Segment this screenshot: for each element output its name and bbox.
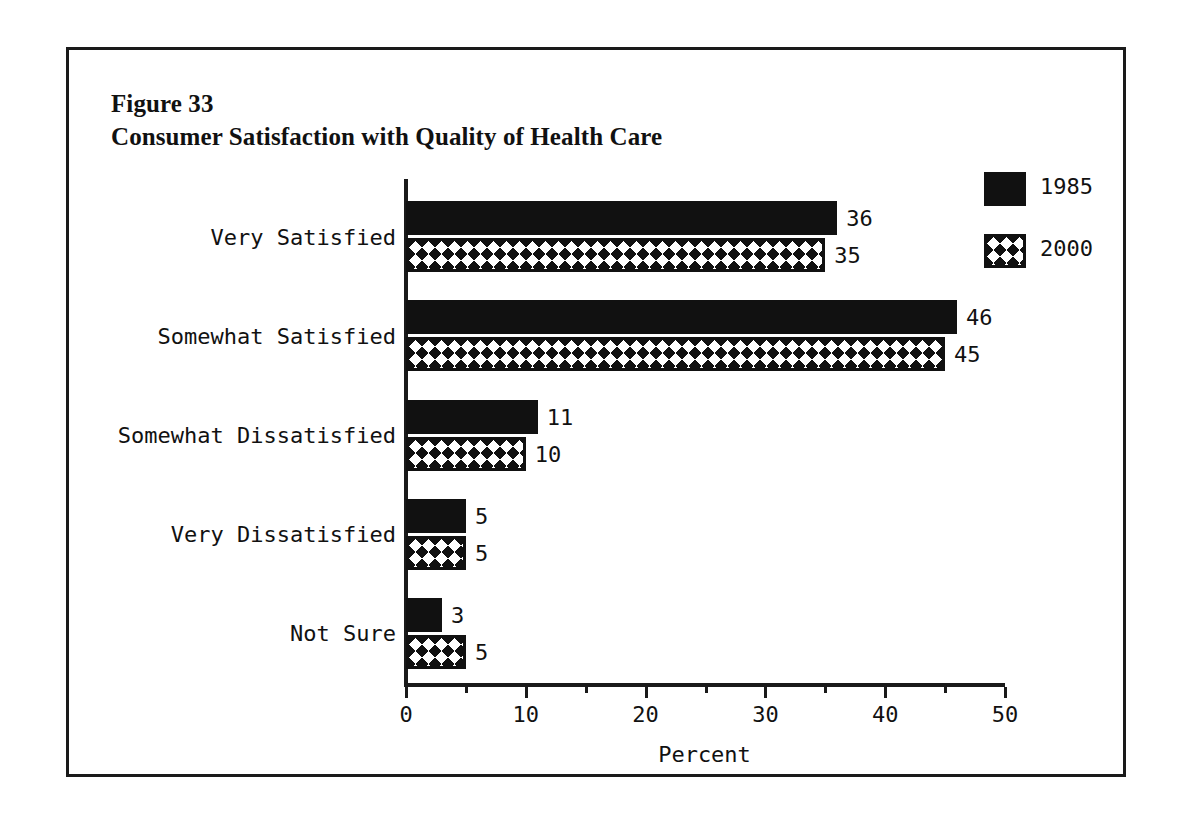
- bar-1985: [406, 499, 466, 533]
- legend-swatch-icon: [984, 234, 1026, 268]
- chart-legend: 19852000: [984, 172, 1124, 296]
- category-label: Very Satisfied: [74, 224, 404, 249]
- bar-value-label: 3: [451, 602, 464, 627]
- bar-2000: [406, 238, 825, 272]
- x-tick-label: 0: [399, 702, 412, 727]
- figure-frame: Figure 33 Consumer Satisfaction with Qua…: [66, 47, 1126, 777]
- x-tick-minor: [585, 687, 588, 693]
- category-label: Somewhat Dissatisfied: [74, 423, 404, 448]
- x-tick-minor: [465, 687, 468, 693]
- bar-chart-plot-area: 01020304050 Percent Very SatisfiedSomewh…: [69, 50, 1129, 780]
- legend-label: 1985: [1040, 174, 1093, 199]
- x-tick-label: 20: [632, 702, 659, 727]
- bar-value-label: 10: [535, 441, 562, 466]
- bar-value-label: 36: [846, 206, 873, 231]
- bar-2000: [406, 635, 466, 669]
- bar-1985: [406, 300, 957, 334]
- x-tick-major: [525, 687, 528, 698]
- x-axis-label: Percent: [404, 742, 1005, 767]
- x-tick-major: [884, 687, 887, 698]
- x-tick-label: 40: [872, 702, 899, 727]
- bar-value-label: 45: [954, 342, 981, 367]
- bar-value-label: 5: [475, 503, 488, 528]
- x-tick-label: 50: [992, 702, 1019, 727]
- legend-item-2000[interactable]: 2000: [984, 234, 1124, 278]
- x-tick-major: [1004, 687, 1007, 698]
- bar-value-label: 5: [475, 540, 488, 565]
- bar-2000: [406, 536, 466, 570]
- bar-value-label: 11: [547, 404, 574, 429]
- x-tick-major: [405, 687, 408, 698]
- x-tick-major: [645, 687, 648, 698]
- x-tick-label: 10: [513, 702, 540, 727]
- bar-2000: [406, 337, 945, 371]
- bar-1985: [406, 598, 442, 632]
- x-tick-minor: [824, 687, 827, 693]
- legend-swatch-icon: [984, 172, 1026, 206]
- x-tick-minor: [705, 687, 708, 693]
- bar-1985: [406, 201, 837, 235]
- category-label: Not Sure: [74, 621, 404, 646]
- x-tick-minor: [944, 687, 947, 693]
- legend-item-1985[interactable]: 1985: [984, 172, 1124, 216]
- x-tick-major: [764, 687, 767, 698]
- category-label: Somewhat Satisfied: [74, 323, 404, 348]
- bar-2000: [406, 437, 526, 471]
- legend-label: 2000: [1040, 236, 1093, 261]
- x-tick-label: 30: [752, 702, 779, 727]
- bar-value-label: 5: [475, 639, 488, 664]
- category-label: Very Dissatisfied: [74, 522, 404, 547]
- bar-1985: [406, 400, 538, 434]
- bar-value-label: 35: [834, 243, 861, 268]
- bar-value-label: 46: [966, 305, 993, 330]
